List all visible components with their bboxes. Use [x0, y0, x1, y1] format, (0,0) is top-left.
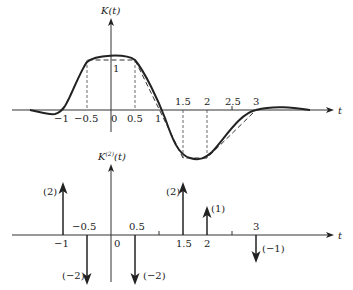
top-piecewise-approx	[63, 60, 256, 158]
top-tick-1: 1	[155, 113, 161, 124]
top-plateau-label: 1	[113, 63, 119, 74]
impulse-label-2: (1)	[211, 203, 225, 214]
impulse-label-neg1: (2)	[43, 186, 57, 197]
impulse-label-3: (−1)	[262, 243, 285, 254]
top-tick-0.5: 0.5	[127, 113, 143, 124]
bottom-tick-marks	[159, 231, 232, 235]
top-tick-0: 0	[111, 113, 117, 124]
impulse-label-neg0.5: (−2)	[62, 270, 85, 281]
top-dashed-guides	[87, 60, 207, 158]
bottom-plot: t K(2)(t) (2) (−2) (−2) (2) (1) (−1) −1 …	[12, 150, 343, 282]
bottom-tick-neg1: −1	[54, 238, 69, 249]
bottom-tick-neg0.5: −0.5	[72, 221, 96, 232]
top-tick-2: 2	[204, 96, 210, 107]
top-tick-2.5: 2.5	[225, 96, 241, 107]
bottom-t-axis-label: t	[338, 230, 343, 241]
top-k-axis-label: K(t)	[100, 5, 120, 16]
bottom-tick-2: 2	[204, 238, 210, 249]
bottom-k2-axis-label: K(2)(t)	[97, 150, 126, 162]
bottom-tick-0: 0	[114, 238, 120, 249]
top-tick-neg0.5: −0.5	[74, 113, 98, 124]
diagram-canvas: t K(t) −1 −0.5 0 0.5 1 1.5 2 2.5 3 1	[0, 0, 353, 290]
impulse-label-0.5: (−2)	[143, 270, 166, 281]
bottom-tick-3: 3	[253, 221, 259, 232]
impulse-label-1.5: (2)	[166, 186, 180, 197]
top-tick-1.5: 1.5	[175, 96, 191, 107]
top-tick-neg1: −1	[54, 113, 69, 124]
top-t-axis-label: t	[338, 105, 343, 116]
bottom-tick-1.5: 1.5	[176, 238, 192, 249]
top-plot: t K(t) −1 −0.5 0 0.5 1 1.5 2 2.5 3 1	[12, 5, 343, 159]
bottom-tick-0.5: 0.5	[129, 221, 145, 232]
top-smooth-curve	[30, 56, 310, 160]
top-tick-3: 3	[253, 96, 259, 107]
